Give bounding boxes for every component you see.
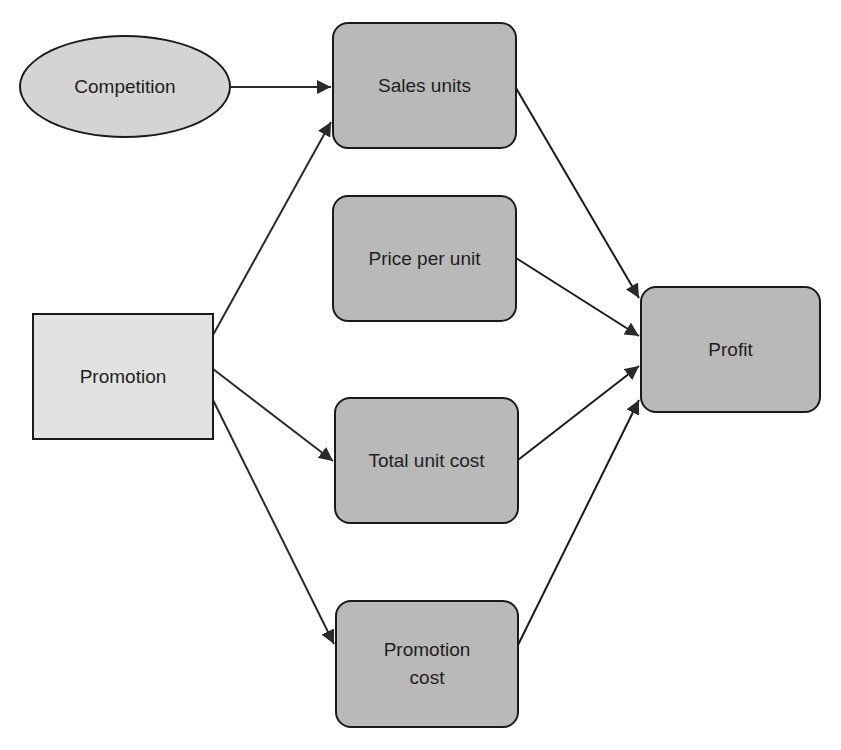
node-label: Price per unit [369, 245, 481, 273]
node-sales-units: Sales units [332, 22, 517, 149]
node-label: Promotion [80, 363, 167, 391]
node-promotion: Promotion [32, 313, 214, 440]
node-label: Promotion cost [384, 636, 471, 691]
edge-total-unit-cost-to-profit [518, 366, 639, 460]
node-price-per-unit: Price per unit [332, 195, 517, 322]
edge-price-per-unit-to-profit [516, 258, 639, 336]
edge-sales-units-to-profit [516, 88, 639, 298]
node-label: Competition [74, 73, 175, 101]
node-total-unit-cost: Total unit cost [334, 397, 519, 524]
node-promotion-cost: Promotion cost [335, 600, 519, 728]
edge-promotion-to-total-unit-cost [213, 369, 333, 461]
node-label: Sales units [378, 72, 471, 100]
node-label: Profit [708, 336, 752, 364]
edge-promotion-to-sales-units [213, 122, 331, 335]
node-label: Total unit cost [368, 447, 484, 475]
node-competition: Competition [19, 35, 231, 138]
node-profit: Profit [640, 286, 821, 413]
edge-promotion-to-promotion-cost [213, 400, 334, 644]
edge-promotion-cost-to-profit [518, 400, 639, 645]
